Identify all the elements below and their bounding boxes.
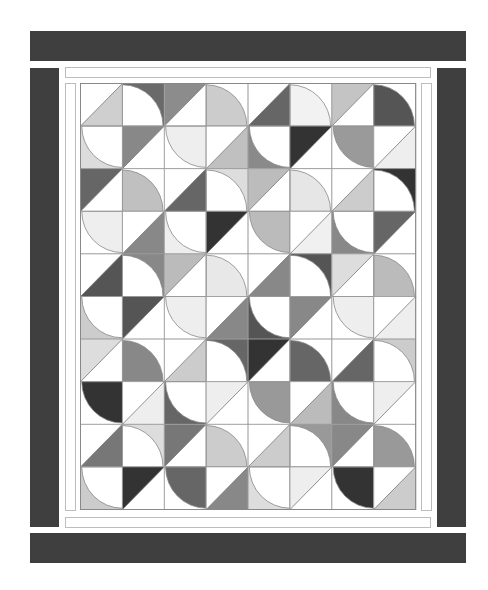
quilt-cell xyxy=(81,84,123,127)
quilt-cell xyxy=(248,339,290,382)
quilt-cell xyxy=(248,169,290,212)
quilt-cell xyxy=(332,84,374,127)
quilt-cell xyxy=(332,467,374,510)
quilt-cell xyxy=(206,169,248,212)
quilt-cell xyxy=(290,254,332,297)
outer-border-right xyxy=(437,68,466,527)
quilt-cell xyxy=(374,211,416,254)
quilt-cell xyxy=(290,467,332,510)
quilt-cell xyxy=(122,297,164,340)
quilt-block-grid xyxy=(80,83,417,511)
quilt-cell xyxy=(164,339,206,382)
quilt-cell xyxy=(81,126,123,169)
quilt-cell xyxy=(81,169,123,212)
quilt-cell xyxy=(290,382,332,425)
inner-border-right xyxy=(421,83,432,511)
quilt-cell xyxy=(290,211,332,254)
quilt-cell xyxy=(122,126,164,169)
quilt-cell xyxy=(290,297,332,340)
quilt-cell xyxy=(164,467,206,510)
quilt-cell xyxy=(332,126,374,169)
quilt-cell xyxy=(81,424,123,467)
quilt-cell xyxy=(81,254,123,297)
quilt-cell xyxy=(248,84,290,127)
quilt-cell xyxy=(290,424,332,467)
quilt-cell xyxy=(248,254,290,297)
quilt-cell xyxy=(332,382,374,425)
quilt-cell xyxy=(81,339,123,382)
quilt-cell xyxy=(248,467,290,510)
quilt-cell xyxy=(374,424,416,467)
outer-border-left xyxy=(30,68,59,527)
quilt-cell xyxy=(206,254,248,297)
quilt-cell xyxy=(248,211,290,254)
quilt-cell xyxy=(122,169,164,212)
quilt-cell xyxy=(206,211,248,254)
quilt-cell xyxy=(374,84,416,127)
quilt-cell xyxy=(206,126,248,169)
quilt-cell xyxy=(206,297,248,340)
quilt-cell xyxy=(290,339,332,382)
quilt-cell xyxy=(374,339,416,382)
inner-border-left xyxy=(65,83,76,511)
quilt-cell xyxy=(164,211,206,254)
quilt-cell xyxy=(164,297,206,340)
outer-border-bottom xyxy=(30,533,466,563)
quilt-cell xyxy=(374,382,416,425)
inner-border-bottom xyxy=(65,517,431,528)
quilt-cell xyxy=(122,424,164,467)
quilt-cell xyxy=(332,169,374,212)
quilt-cell xyxy=(122,254,164,297)
quilt-cell xyxy=(164,169,206,212)
quilt-cell xyxy=(81,297,123,340)
quilt-cell xyxy=(206,339,248,382)
quilt-cell xyxy=(332,211,374,254)
quilt-cell xyxy=(290,126,332,169)
quilt-cell xyxy=(248,126,290,169)
quilt-cell xyxy=(122,339,164,382)
quilt-cell xyxy=(332,297,374,340)
quilt-cell xyxy=(332,424,374,467)
quilt-cell xyxy=(374,169,416,212)
quilt-cell xyxy=(164,126,206,169)
quilt-cell xyxy=(122,467,164,510)
quilt-cell xyxy=(206,467,248,510)
quilt-cell xyxy=(164,382,206,425)
quilt-cell xyxy=(164,254,206,297)
quilt-cell xyxy=(206,84,248,127)
quilt-cell xyxy=(290,84,332,127)
quilt-cell xyxy=(248,424,290,467)
quilt-cell xyxy=(248,297,290,340)
quilt-cell xyxy=(374,297,416,340)
outer-border-top xyxy=(30,31,466,61)
quilt-cell xyxy=(332,339,374,382)
inner-border-top xyxy=(65,67,431,78)
quilt-cell xyxy=(332,254,374,297)
quilt-cell xyxy=(206,382,248,425)
quilt-cell xyxy=(374,467,416,510)
quilt-cell xyxy=(122,84,164,127)
quilt-cell xyxy=(81,467,123,510)
quilt-cell xyxy=(122,382,164,425)
quilt-cell xyxy=(164,424,206,467)
quilt-cell xyxy=(248,382,290,425)
quilt-cell xyxy=(81,211,123,254)
quilt-cell xyxy=(122,211,164,254)
quilt-cell xyxy=(290,169,332,212)
quilt-cell xyxy=(81,382,123,425)
quilt-cell xyxy=(374,126,416,169)
quilt-cell xyxy=(164,84,206,127)
quilt-cell xyxy=(374,254,416,297)
quilt-cell xyxy=(206,424,248,467)
